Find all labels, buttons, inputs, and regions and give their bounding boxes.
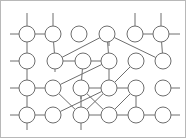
- graph-node: [101, 53, 117, 69]
- graph-node: [153, 26, 169, 42]
- graph-node: [45, 80, 61, 96]
- graph-node: [99, 26, 115, 42]
- lattice-graph-canvas: [0, 0, 186, 138]
- graph-node: [19, 53, 35, 69]
- graph-node: [101, 80, 117, 96]
- graph-node: [73, 80, 89, 96]
- graph-node: [128, 80, 144, 96]
- graph-node: [45, 107, 61, 123]
- lattice-graph-figure: [0, 0, 186, 138]
- graph-node: [155, 80, 171, 96]
- graph-node: [19, 107, 35, 123]
- graph-node: [47, 53, 63, 69]
- graph-edge-diagonal: [115, 94, 131, 110]
- graph-node: [155, 107, 171, 123]
- graph-node: [45, 26, 61, 42]
- graph-node: [19, 26, 35, 42]
- graph-edge-diagonal: [115, 67, 131, 83]
- graph-node: [75, 53, 91, 69]
- graph-edge-diagonal: [59, 94, 75, 110]
- graph-node: [127, 26, 143, 42]
- graph-node: [73, 107, 89, 123]
- graph-node: [101, 107, 117, 123]
- graph-node: [128, 53, 144, 69]
- graph-edge-vertical: [54, 42, 55, 53]
- graph-node: [128, 107, 144, 123]
- graph-edge-vertical: [108, 42, 109, 53]
- graph-node: [71, 26, 87, 42]
- edge-layer: [27, 34, 162, 115]
- graph-node: [155, 53, 171, 69]
- graph-edge-diagonal: [82, 69, 83, 80]
- graph-node: [19, 80, 35, 96]
- graph-edge-vertical: [162, 42, 163, 53]
